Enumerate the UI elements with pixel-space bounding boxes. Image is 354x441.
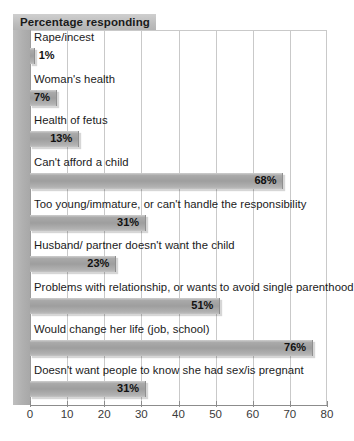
x-axis-tick-label: 30 [135, 408, 148, 420]
bar-row: Husband/ partner doesn't want the child2… [30, 238, 327, 280]
bar-value-label: 23% [87, 257, 109, 269]
x-axis-tick-mark [30, 401, 31, 407]
x-axis-tick-mark [141, 401, 142, 407]
bar [30, 340, 313, 356]
x-axis-tick-mark [179, 401, 180, 407]
bar-value-label: 13% [50, 132, 72, 144]
bar-row: Woman's health7% [30, 72, 327, 114]
bar-row: Health of fetus13% [30, 113, 327, 155]
bar-rows: Rape/incest1%Woman's health7%Health of f… [30, 30, 327, 405]
bar-row: Rape/incest1% [30, 30, 327, 72]
x-axis-tick-mark [253, 401, 254, 407]
chart-title: Percentage responding [13, 14, 156, 30]
x-axis-tick-label: 70 [283, 408, 296, 420]
bar-category-label: Would change her life (job, school) [34, 323, 209, 335]
bar-container: 13% [30, 131, 78, 147]
bar [30, 173, 283, 189]
bar-container: 51% [30, 298, 219, 314]
x-axis-tick-label: 20 [98, 408, 111, 420]
bar-category-label: Can't afford a child [34, 156, 129, 168]
bar-category-label: Problems with relationship, or wants to … [34, 281, 354, 293]
bar-category-label: Rape/incest [34, 31, 94, 43]
bar-container: 31% [30, 215, 145, 231]
x-axis-tick-mark [290, 401, 291, 407]
bar-row: Problems with relationship, or wants to … [30, 280, 327, 322]
x-axis-tick-labels: 01020304050607080 [30, 408, 327, 426]
bar-category-label: Health of fetus [34, 114, 108, 126]
bar-container: 23% [30, 256, 115, 272]
x-axis-tick-label: 0 [27, 408, 33, 420]
bar-value-label: 7% [34, 91, 50, 103]
bar-value-label: 76% [284, 341, 306, 353]
bar [30, 48, 35, 64]
x-axis-tick-mark [67, 401, 68, 407]
bar-container: 31% [30, 381, 145, 397]
bar-category-label: Woman's health [34, 73, 115, 85]
bar-container: 76% [30, 340, 312, 356]
bar-container: 7% [30, 90, 56, 106]
x-axis-tick-mark [216, 401, 217, 407]
bar-value-label: 68% [254, 174, 276, 186]
bar-value-label: 31% [117, 216, 139, 228]
x-axis-tick-mark [104, 401, 105, 407]
bar-value-label: 1% [39, 49, 55, 61]
bar-row: Doesn't want people to know she had sex/… [30, 363, 327, 405]
x-axis-tick-label: 60 [246, 408, 259, 420]
chart-title-text: Percentage responding [20, 16, 150, 28]
bar-value-label: 51% [191, 299, 213, 311]
x-axis-tick-label: 40 [172, 408, 185, 420]
plot-area: Rape/incest1%Woman's health7%Health of f… [30, 30, 327, 405]
bar-category-label: Too young/immature, or can't handle the … [34, 198, 306, 210]
category-axis-band [13, 14, 30, 405]
bar-category-label: Doesn't want people to know she had sex/… [34, 364, 304, 376]
bar-row: Too young/immature, or can't handle the … [30, 197, 327, 239]
bar-value-label: 31% [117, 382, 139, 394]
bar-container: 1% [30, 48, 34, 64]
bar-container: 68% [30, 173, 282, 189]
x-axis-tick-label: 80 [321, 408, 334, 420]
x-axis-tick-label: 50 [209, 408, 222, 420]
x-axis-tick-label: 10 [61, 408, 74, 420]
bar-row: Would change her life (job, school)76% [30, 322, 327, 364]
bar-row: Can't afford a child68% [30, 155, 327, 197]
x-axis-tick-mark [327, 401, 328, 407]
bar-category-label: Husband/ partner doesn't want the child [34, 239, 235, 251]
